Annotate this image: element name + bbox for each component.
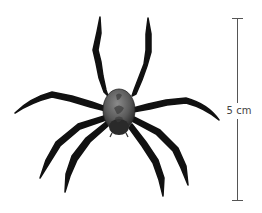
scale-bar-label: 5 cm (222, 103, 256, 119)
leg-front-right (132, 18, 151, 96)
leg-front-left (93, 17, 108, 96)
figure: 5 cm (0, 0, 262, 213)
leg-mid-right (133, 98, 219, 120)
pedipalp-right (126, 133, 128, 137)
pedipalp-left (110, 133, 112, 137)
leg-mid-left (15, 92, 106, 113)
